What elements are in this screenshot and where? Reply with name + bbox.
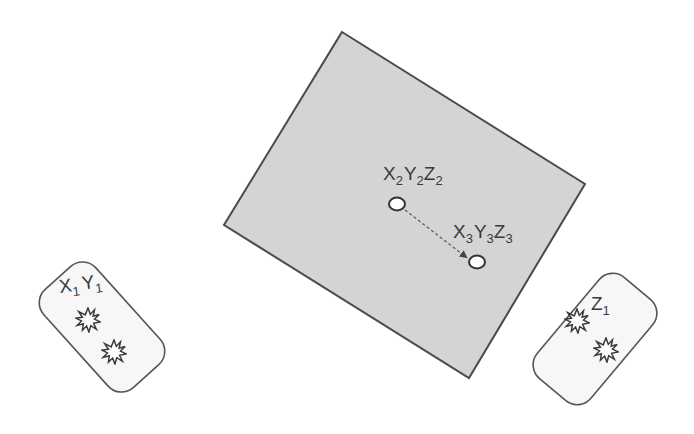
point-3-marker bbox=[469, 256, 485, 269]
point-2-marker bbox=[389, 198, 405, 211]
field-group: X2Y2Z2 X3Y3Z3 bbox=[224, 32, 585, 378]
left-card: X1Y1 bbox=[32, 255, 172, 400]
right-card-outline bbox=[526, 266, 664, 412]
left-card-outline bbox=[32, 255, 172, 400]
diagram-canvas: X2Y2Z2 X3Y3Z3 X1Y1 Z1 bbox=[0, 0, 694, 434]
right-card: Z1 bbox=[526, 266, 664, 412]
